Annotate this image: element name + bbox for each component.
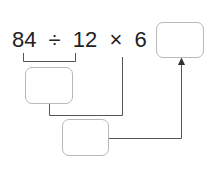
arrow-up-icon xyxy=(178,58,185,66)
intermediate-box-1[interactable] xyxy=(25,67,73,104)
intermediate-box-2[interactable] xyxy=(62,119,109,156)
answer-box[interactable] xyxy=(156,22,204,58)
connector-box2-to-answer xyxy=(109,64,182,139)
bracket-line xyxy=(24,53,76,62)
